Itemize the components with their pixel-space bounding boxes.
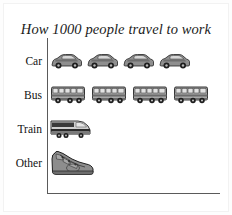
bus-icon bbox=[50, 85, 88, 105]
bus-icon bbox=[173, 85, 211, 105]
category-label-train: Train bbox=[0, 112, 42, 146]
car-icon bbox=[122, 53, 155, 70]
car-icon bbox=[158, 53, 191, 70]
train-icon bbox=[50, 117, 92, 141]
bus-icon bbox=[91, 85, 129, 105]
icon-track-bus bbox=[50, 78, 211, 112]
shoe-icon bbox=[50, 148, 96, 178]
icon-track-other bbox=[50, 146, 96, 180]
category-label-other: Other bbox=[0, 146, 42, 180]
category-label-car: Car bbox=[0, 44, 42, 78]
category-label-bus: Bus bbox=[0, 78, 42, 112]
bus-icon bbox=[132, 85, 170, 105]
pictogram-rows: Car bbox=[0, 0, 232, 215]
icon-track-car bbox=[50, 44, 191, 78]
car-icon bbox=[50, 53, 83, 70]
car-icon bbox=[86, 53, 119, 70]
icon-track-train bbox=[50, 112, 92, 146]
pictogram-chart: How 1000 people travel to work Car bbox=[0, 0, 232, 215]
